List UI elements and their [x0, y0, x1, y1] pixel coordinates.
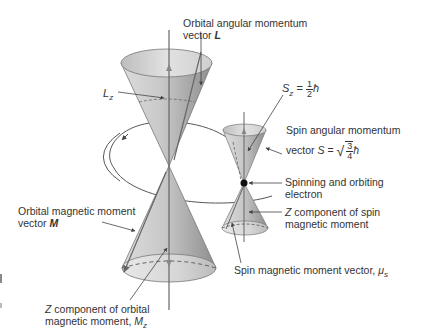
edge-artifact [0, 303, 2, 308]
Mz-symbol: M [134, 315, 143, 327]
label-text: magnetic moment, [45, 315, 134, 327]
label-line: Spinning and orbiting [285, 176, 384, 188]
orbital-magnetic-moment-label: Orbital magnetic moment vector M [18, 205, 135, 229]
label-text: vector [18, 217, 50, 229]
electron-dot [241, 180, 248, 187]
label-text: Spin magnetic moment vector, [234, 264, 378, 276]
label-line: Spin angular momentum [286, 124, 400, 136]
label-line: Orbital angular momentum [183, 17, 307, 29]
spin-vector-equation: vector S = √34ħ [286, 141, 359, 161]
label-line: magnetic moment [285, 218, 380, 230]
hbar-symbol: ħ [353, 144, 359, 156]
label-line: vector L [183, 29, 307, 41]
label-line: vector M [18, 217, 135, 229]
label-text: component of orbital [51, 303, 149, 315]
Sz-equation-label: Sz = 12ħ [282, 80, 319, 100]
edge-artifact [0, 274, 2, 283]
label-line: Z component of spin [285, 206, 380, 218]
label-text: vector [286, 144, 318, 156]
Lz-subscript: z [109, 93, 113, 102]
label-line: Orbital magnetic moment [18, 205, 135, 217]
angular-momentum-diagram: Orbital angular momentum vector L Lz Sz … [0, 0, 423, 335]
spin-angular-momentum-label: Spin angular momentum [286, 124, 400, 136]
z-component-spin-label: Z component of spin magnetic moment [285, 206, 380, 230]
diagram-figure [0, 0, 423, 335]
fraction-denominator: 2 [306, 90, 313, 99]
Lz-label: Lz [103, 87, 113, 104]
label-line: electron [285, 188, 384, 200]
label-text: vector [183, 29, 215, 41]
orbital-angular-momentum-cone [121, 49, 212, 166]
spin-magnetic-moment-label: Spin magnetic moment vector, μs [234, 264, 388, 281]
label-text: component of spin [291, 206, 380, 218]
label-line: Z component of orbital [45, 303, 149, 315]
mu-subscript: s [384, 270, 388, 279]
equals-sign: = [325, 144, 337, 156]
z-component-orbital-label: Z component of orbital magnetic moment, … [45, 303, 149, 332]
vector-L-symbol: L [215, 29, 221, 41]
hbar-symbol: ħ [313, 82, 319, 94]
orbital-angular-momentum-label: Orbital angular momentum vector L [183, 17, 307, 41]
equals-sign: = [293, 82, 306, 94]
electron-label: Spinning and orbiting electron [285, 176, 384, 200]
vector-M-symbol: M [50, 217, 59, 229]
Mz-subscript: z [143, 321, 147, 330]
label-line: magnetic moment, Mz [45, 315, 149, 332]
spin-magnetic-moment-cone [222, 183, 268, 235]
sqrt-radicand: 34 [345, 141, 353, 161]
fraction-one-half: 12 [306, 80, 313, 99]
sqrt-icon: √ [337, 143, 345, 159]
vector-S-symbol: S [318, 144, 325, 156]
